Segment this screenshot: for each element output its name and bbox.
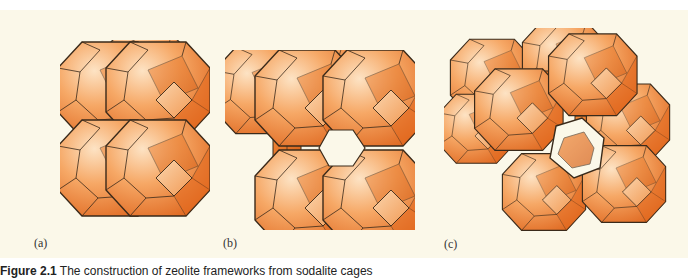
panel-label-c: (c)	[444, 237, 457, 252]
structure-a-sodalite-packing	[60, 40, 210, 220]
panel-label-b: (b)	[223, 236, 237, 251]
structure-c-faujasite-supercage	[444, 28, 684, 238]
figure-caption: Figure 2.1 The construction of zeolite f…	[0, 264, 373, 278]
caption-text: The construction of zeolite frameworks f…	[60, 264, 373, 278]
structure-b-lta-framework	[225, 50, 415, 230]
panel-label-a: (a)	[34, 236, 47, 251]
caption-prefix: Figure 2.1	[0, 264, 57, 278]
